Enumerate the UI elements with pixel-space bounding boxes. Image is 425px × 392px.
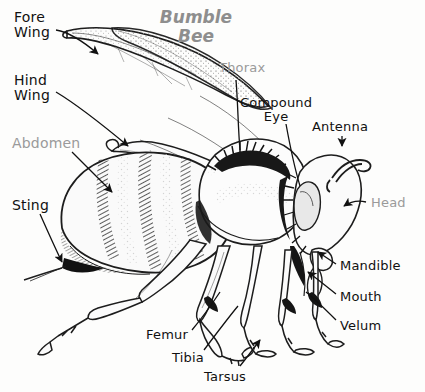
label-velum: Velum	[340, 319, 381, 333]
front-leg	[278, 250, 292, 326]
bumble-bee-anatomy-diagram: Bumble Bee Fore Wing Hind Wing Abdomen S…	[0, 0, 425, 392]
label-head: Head	[371, 196, 406, 210]
thorax-group	[196, 139, 308, 244]
diagram-title: Bumble Bee	[150, 8, 242, 45]
label-thorax: Thorax	[219, 61, 265, 75]
head-group	[279, 155, 371, 298]
middle-leg-rear	[241, 246, 262, 328]
sting-leader	[40, 214, 62, 262]
label-antenna: Antenna	[312, 120, 368, 134]
bee-illustration	[0, 0, 425, 392]
label-tibia: Tibia	[172, 351, 204, 365]
label-femur: Femur	[146, 328, 188, 342]
label-hind-wing: Hind Wing	[14, 73, 50, 102]
label-compound-eye: Compound Eye	[240, 96, 312, 123]
label-fore-wing: Fore Wing	[14, 10, 50, 39]
label-abdomen: Abdomen	[12, 136, 80, 151]
label-mandible: Mandible	[340, 259, 401, 273]
label-tarsus: Tarsus	[204, 370, 246, 384]
tibia-leader	[204, 306, 238, 350]
label-mouth: Mouth	[340, 290, 382, 304]
label-sting: Sting	[12, 198, 49, 213]
velum-leader	[306, 292, 336, 320]
